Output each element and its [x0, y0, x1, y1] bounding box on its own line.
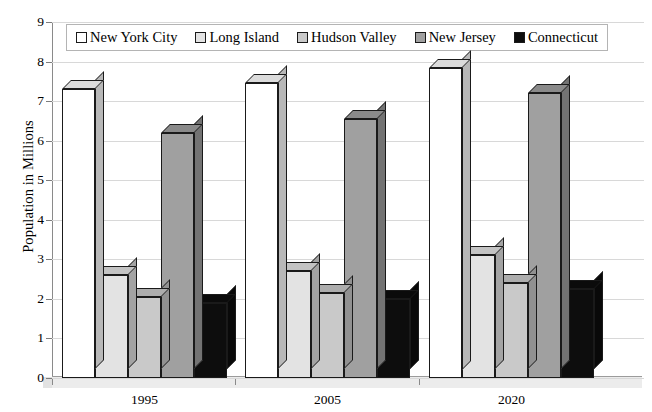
gridline	[52, 22, 644, 23]
y-axis-tick	[46, 62, 52, 63]
y-axis-tick-label: 3	[22, 253, 44, 267]
bar-side-face	[278, 65, 287, 369]
legend-label: Hudson Valley	[311, 29, 397, 46]
y-axis-tick	[46, 141, 52, 142]
y-axis-line	[52, 22, 53, 378]
x-axis-tick-label: 2005	[314, 392, 341, 408]
legend-swatch-icon	[514, 32, 525, 43]
y-axis-tick-label: 0	[22, 371, 44, 385]
legend-item: Connecticut	[514, 29, 598, 46]
bar-side-face	[95, 71, 104, 369]
bar-side-face	[194, 115, 203, 369]
legend-label: Long Island	[209, 29, 279, 46]
legend-label: New Jersey	[429, 29, 496, 46]
legend-item: Long Island	[195, 29, 279, 46]
y-axis-tick-label: 2	[22, 292, 44, 306]
bar	[245, 83, 278, 378]
bar-front-face	[245, 83, 278, 378]
x-axis-tick-label: 2020	[498, 392, 525, 408]
bar-side-face	[311, 253, 320, 369]
bar-side-face	[462, 50, 471, 370]
legend: New York CityLong IslandHudson ValleyNew…	[66, 24, 608, 51]
y-axis-tick	[46, 259, 52, 260]
bar-chart: Population in Millions 0123456789 199520…	[0, 0, 652, 412]
legend-swatch-icon	[297, 32, 308, 43]
legend-item: New York City	[76, 29, 177, 46]
bar	[62, 89, 95, 378]
bar-side-face	[128, 257, 137, 369]
bar-front-face	[429, 68, 462, 379]
y-axis-tick	[46, 299, 52, 300]
bar-front-face	[62, 89, 95, 378]
legend-label: New York City	[90, 29, 177, 46]
y-axis-tick-label: 8	[22, 55, 44, 69]
y-axis-tick-label: 6	[22, 134, 44, 148]
bar-side-face	[495, 237, 504, 369]
plot-area: 0123456789	[52, 22, 642, 378]
legend-label: Connecticut	[528, 29, 598, 46]
bar-side-face	[377, 101, 386, 369]
y-axis-tick	[46, 101, 52, 102]
y-axis-tick-label: 4	[22, 213, 44, 227]
legend-item: Hudson Valley	[297, 29, 397, 46]
gridline	[52, 378, 644, 379]
legend-item: New Jersey	[415, 29, 496, 46]
y-axis-tick	[46, 220, 52, 221]
x-axis-tick	[52, 379, 53, 385]
legend-swatch-icon	[195, 32, 206, 43]
bar	[429, 68, 462, 379]
y-axis-tick-label: 5	[22, 173, 44, 187]
legend-swatch-icon	[76, 32, 87, 43]
y-axis-tick	[46, 338, 52, 339]
x-axis-tick-label: 1995	[131, 392, 158, 408]
y-axis-tick	[46, 180, 52, 181]
x-axis-tick	[235, 379, 236, 385]
legend-swatch-icon	[415, 32, 426, 43]
bar-side-face	[561, 75, 570, 369]
y-axis-tick-label: 7	[22, 94, 44, 108]
x-axis-tick	[419, 379, 420, 385]
gridline	[52, 62, 644, 63]
y-axis-tick-label: 1	[22, 332, 44, 346]
y-axis-tick-label: 9	[22, 15, 44, 29]
y-axis-tick	[46, 22, 52, 23]
